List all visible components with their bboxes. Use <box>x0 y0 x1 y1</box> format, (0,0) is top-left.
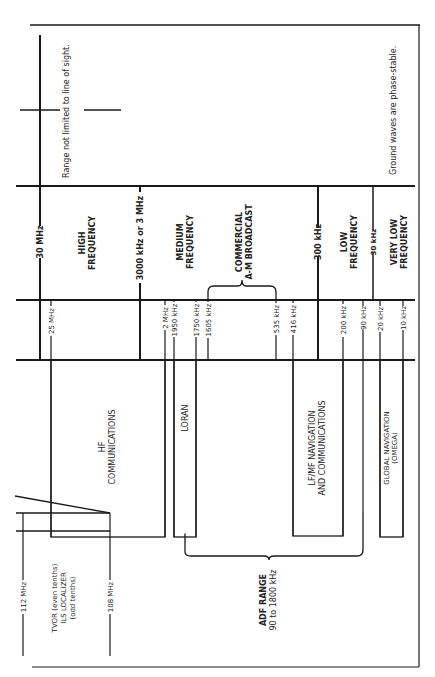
tick-label-10khz: 10 kHz <box>400 306 408 330</box>
band-medium-l2: FREQUENCY <box>186 215 195 269</box>
range-note: Range not limited to line of sight. <box>62 44 71 178</box>
tick-label-200khz: 200 kHz <box>340 305 348 334</box>
band-medium-l1: MEDIUM <box>176 223 185 261</box>
label-300khz: 300 kHz <box>314 224 323 261</box>
lfmf-nav-l2: AND COMMUNICATIONS <box>318 400 327 495</box>
broadcast-l2: A-M BROADCAST <box>245 204 254 280</box>
am-broadcast-brace <box>208 280 276 300</box>
vhf-odd-label: (odd tenths) <box>69 576 77 619</box>
adf-range-value: 90 to 1800 kHz <box>269 569 278 630</box>
tick-label-1950khz: 1950 kHz <box>171 303 179 336</box>
vhf-108mhz-label: 108 MHz <box>107 581 115 612</box>
vhf-tvor-label: TVOR (even tenths) <box>51 563 59 633</box>
band-high-l1: HIGH <box>78 232 87 255</box>
vhf-112mhz-label: 112 MHz <box>20 581 28 612</box>
omega-l2: (OMEGA) <box>391 432 399 464</box>
tick-label-416khz: 416 kHz <box>290 304 298 333</box>
tick-label-2mhz: 2 MHz <box>162 307 170 329</box>
lfmf-nav-l1: LF/MF NAVIGATION <box>308 410 317 485</box>
label-3mhz: 3000 kHz or 3 MHz <box>136 195 145 280</box>
tick-label-25mhz: 25 MHz <box>48 308 56 334</box>
band-low-l1: LOW <box>340 232 349 253</box>
tick-label-535khz: 535 kHz <box>273 304 281 333</box>
frequency-spectrum-diagram: Range not limited to line of sight. Grou… <box>0 0 435 677</box>
broadcast-l1: COMMERCIAL <box>235 212 244 272</box>
vhf-ils-label: ILS LOCALIZER <box>60 572 68 624</box>
tick-label-1750khz: 1750 kHz <box>193 303 201 336</box>
loran-label: LORAN <box>181 404 190 431</box>
tick-label-20khz: 20 kHz <box>377 307 385 331</box>
omega-l1: GLOBAL NAVIGATION <box>383 411 391 485</box>
loran-box <box>174 360 196 537</box>
tick-label-90khz: 90 kHz <box>360 306 368 330</box>
band-vlf-l1: VERY LOW <box>390 219 399 266</box>
hf-comm-l2: COMMUNICATIONS <box>108 410 117 485</box>
label-30khz: 30 kHz <box>370 229 378 256</box>
ground-note: Ground waves are phase-stable. <box>389 46 398 175</box>
adf-range-title: ADF RANGE <box>259 574 268 626</box>
band-vlf-l2: FREQUENCY <box>400 215 409 269</box>
band-high-l2: FREQUENCY <box>88 216 97 270</box>
label-30mhz: 30 MHz <box>36 225 45 259</box>
hf-comm-l1: HF <box>98 441 107 452</box>
band-low-l2: FREQUENCY <box>350 215 359 269</box>
tick-label-1605khz: 1605 kHz <box>205 303 213 336</box>
vhf-taper-line <box>15 496 110 513</box>
